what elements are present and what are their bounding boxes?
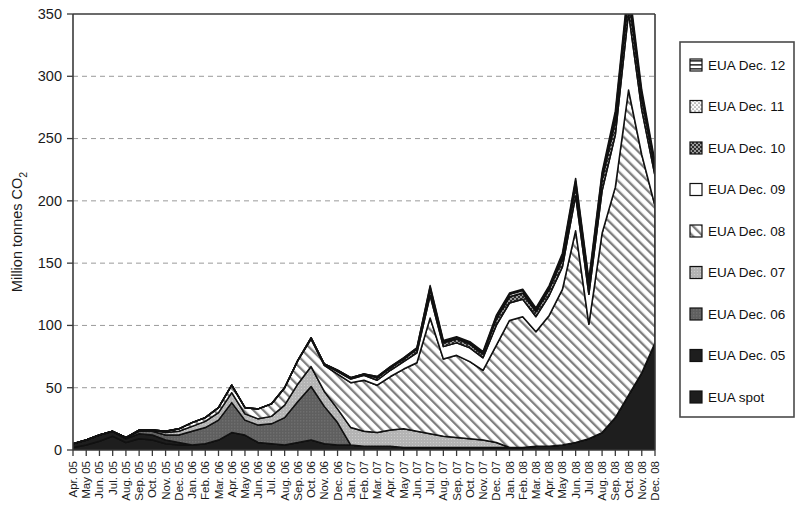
x-tick-label: Jan. 06 xyxy=(186,461,198,499)
x-tick-label: Aug. 08 xyxy=(596,461,608,501)
y-tick-label: 150 xyxy=(38,255,62,271)
x-tick-label: Apr. 08 xyxy=(543,461,555,497)
y-tick-label: 300 xyxy=(38,68,62,84)
x-tick-label: Sep. 07 xyxy=(451,461,463,501)
x-tick-label: May 05 xyxy=(80,461,92,499)
x-tick-label: Aug. 06 xyxy=(279,461,291,501)
x-tick-label: Nov. 08 xyxy=(636,461,648,500)
legend-swatch-icon xyxy=(690,391,702,403)
chart-container: 050100150200250300350 Apr. 05May 05Jun. … xyxy=(0,0,801,516)
legend-swatch-icon xyxy=(690,184,702,196)
x-tick-label: Aug. 07 xyxy=(437,461,449,501)
y-tick-label: 200 xyxy=(38,193,62,209)
legend-swatch-icon xyxy=(690,308,702,320)
x-tick-label: Oct. 08 xyxy=(623,461,635,498)
x-tick-label: Feb. 08 xyxy=(517,461,529,500)
legend-label: EUA Dec. 08 xyxy=(708,224,785,239)
legend-swatch-icon xyxy=(690,101,702,113)
x-tick-label: Oct. 06 xyxy=(305,461,317,498)
legend-label: EUA Dec. 06 xyxy=(708,307,785,322)
x-axis-ticks: Apr. 05May 05Jun. 05Jul. 05Aug. 05Sep. 0… xyxy=(67,450,661,501)
y-tick-label: 350 xyxy=(38,6,62,22)
x-tick-label: Jul. 08 xyxy=(583,461,595,495)
x-tick-label: Aug. 05 xyxy=(120,461,132,501)
legend-swatch-icon xyxy=(690,59,702,71)
series-areas xyxy=(73,0,655,450)
legend-label: EUA Dec. 05 xyxy=(708,348,785,363)
x-tick-label: Jul. 05 xyxy=(107,461,119,495)
legend-item-eua-spot[interactable]: EUA spot xyxy=(690,390,765,405)
x-tick-label: Dec. 08 xyxy=(649,461,661,501)
x-tick-label: Oct. 05 xyxy=(146,461,158,498)
legend-label: EUA Dec. 09 xyxy=(708,182,785,197)
x-tick-label: Jul. 06 xyxy=(265,461,277,495)
legend-swatch-icon xyxy=(690,350,702,362)
x-tick-label: Feb. 06 xyxy=(199,461,211,500)
x-tick-label: Jun. 05 xyxy=(93,461,105,499)
x-tick-label: May 07 xyxy=(398,461,410,499)
y-tick-label: 50 xyxy=(46,380,62,396)
legend-label: EUA Dec. 11 xyxy=(708,99,784,114)
legend-swatch-icon xyxy=(690,225,702,237)
x-tick-label: Jun. 07 xyxy=(411,461,423,499)
stacked-area-chart: 050100150200250300350 Apr. 05May 05Jun. … xyxy=(0,0,801,516)
x-tick-label: Jul. 07 xyxy=(424,461,436,495)
x-tick-label: Jun. 06 xyxy=(252,461,264,499)
x-tick-label: Jan. 08 xyxy=(504,461,516,499)
legend-label: EUA Dec. 12 xyxy=(708,58,785,73)
x-tick-label: Nov. 05 xyxy=(160,461,172,500)
x-tick-label: Mar. 07 xyxy=(371,461,383,499)
x-tick-label: Dec. 07 xyxy=(490,461,502,501)
x-tick-label: May 06 xyxy=(239,461,251,499)
x-tick-label: Apr. 06 xyxy=(226,461,238,497)
legend-label: EUA spot xyxy=(708,390,765,405)
legend-label: EUA Dec. 10 xyxy=(708,141,785,156)
x-tick-label: Nov. 06 xyxy=(318,461,330,500)
x-tick-label: Sep. 05 xyxy=(133,461,145,501)
x-tick-label: Dec. 05 xyxy=(173,461,185,501)
x-tick-label: Nov. 07 xyxy=(477,461,489,500)
chart-legend: EUA Dec. 12EUA Dec. 11EUA Dec. 10EUA Dec… xyxy=(680,42,794,417)
x-tick-label: Feb. 07 xyxy=(358,461,370,500)
x-tick-label: May 08 xyxy=(556,461,568,499)
x-tick-label: Sep. 06 xyxy=(292,461,304,501)
legend-label: EUA Dec. 07 xyxy=(708,265,785,280)
x-tick-label: Apr. 07 xyxy=(384,461,396,497)
legend-swatch-icon xyxy=(690,267,702,279)
y-tick-label: 100 xyxy=(38,317,62,333)
x-tick-label: Mar. 06 xyxy=(213,461,225,499)
x-tick-label: Mar. 08 xyxy=(530,461,542,499)
x-tick-label: Oct. 07 xyxy=(464,461,476,498)
y-tick-label: 250 xyxy=(38,130,62,146)
x-tick-label: Apr. 05 xyxy=(67,461,79,497)
x-tick-label: Jun. 08 xyxy=(570,461,582,499)
y-axis-ticks: 050100150200250300350 xyxy=(38,6,73,458)
y-tick-label: 0 xyxy=(54,442,62,458)
x-tick-label: Dec. 06 xyxy=(332,461,344,501)
x-tick-label: Sep. 08 xyxy=(609,461,621,501)
legend-swatch-icon xyxy=(690,142,702,154)
y-axis-label: Million tonnes CO2 xyxy=(9,172,29,292)
x-tick-label: Jan. 07 xyxy=(345,461,357,499)
